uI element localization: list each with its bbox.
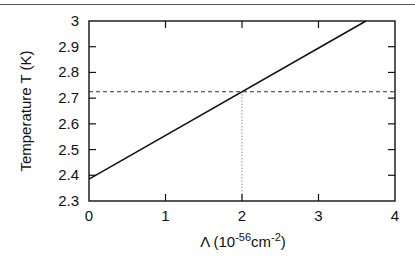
y-axis-ticks: 2.32.42.52.62.72.82.93 (58, 12, 395, 209)
y-tick-label: 2.7 (58, 89, 79, 106)
y-tick-label: 2.5 (58, 141, 79, 158)
x-tick-label: 1 (161, 207, 169, 224)
x-tick-label: 2 (238, 207, 246, 224)
chart: 2.32.42.52.62.72.82.93 01234 Temperature… (0, 0, 415, 266)
series-line (89, 21, 366, 179)
x-tick-label: 0 (85, 207, 93, 224)
x-axis-title: Λ (10-56cm-2) (200, 231, 286, 250)
x-tick-label: 4 (391, 207, 399, 224)
y-tick-label: 2.9 (58, 38, 79, 55)
y-axis-title: Temperature T (K) (17, 50, 34, 171)
y-tick-label: 3 (71, 12, 79, 29)
y-tick-label: 2.3 (58, 192, 79, 209)
x-tick-label: 3 (314, 207, 322, 224)
y-tick-label: 2.6 (58, 115, 79, 132)
y-tick-label: 2.8 (58, 63, 79, 80)
plot-area (89, 21, 395, 201)
y-tick-label: 2.4 (58, 166, 79, 183)
